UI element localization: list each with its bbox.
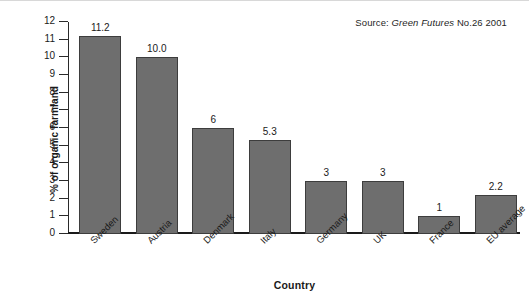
y-axis-tick: 8	[59, 92, 68, 93]
bar[interactable]	[249, 140, 291, 234]
y-axis-tick-label: 5	[29, 138, 55, 151]
y-axis-tick: 10	[59, 56, 68, 57]
bar-value-label: 1	[436, 202, 442, 213]
y-axis-tick: 1	[59, 215, 68, 216]
x-axis-title-text: Country	[274, 279, 316, 291]
bar-value-label: 6	[210, 114, 216, 125]
y-axis-tick-label: 0	[29, 226, 55, 239]
y-axis-tick: 9	[59, 74, 68, 75]
bar-group[interactable]: 2.2	[475, 22, 517, 234]
bar-group[interactable]: 11.2	[79, 22, 121, 234]
bar-group[interactable]: 5.3	[249, 22, 291, 234]
y-axis-tick-label: 12	[29, 14, 55, 27]
bar-value-label: 3	[380, 167, 386, 178]
y-axis-tick: 6	[59, 127, 68, 128]
y-axis-tick: 11	[59, 39, 68, 40]
y-axis-tick: 0	[59, 233, 68, 234]
y-axis-tick: 3	[59, 180, 68, 181]
y-axis-tick-label: 7	[29, 102, 55, 115]
plot-area: 1211109876543210 11.210.065.33312.2	[68, 22, 520, 234]
y-axis-tick: 12	[59, 21, 68, 22]
bar-value-label: 10.0	[147, 43, 166, 54]
bar-value-label: 11.2	[91, 22, 110, 33]
y-axis-tick-label: 6	[29, 120, 55, 133]
y-axis-tick-label: 1	[29, 208, 55, 221]
figure-top-rule	[0, 0, 529, 1]
y-axis-tick: 7	[59, 109, 68, 110]
bar[interactable]	[362, 181, 404, 234]
y-axis-tick-label: 4	[29, 155, 55, 168]
bar[interactable]	[136, 57, 178, 234]
x-axis-title: Country	[0, 279, 529, 291]
bar-value-label: 2.2	[489, 181, 503, 192]
bars-layer: 11.210.065.33312.2	[68, 22, 520, 234]
y-axis-tick-label: 9	[29, 67, 55, 80]
y-axis-tick: 4	[59, 162, 68, 163]
y-axis-tick-label: 11	[29, 32, 55, 45]
bar-group[interactable]: 3	[305, 22, 347, 234]
y-axis-tick-label: 3	[29, 173, 55, 186]
bar-group[interactable]: 1	[418, 22, 460, 234]
y-axis-tick: 5	[59, 145, 68, 146]
bar-group[interactable]: 6	[192, 22, 234, 234]
bar-value-label: 5.3	[263, 126, 277, 137]
bar[interactable]	[79, 36, 121, 234]
y-axis-tick-label: 10	[29, 49, 55, 62]
bar-group[interactable]: 3	[362, 22, 404, 234]
bar-group[interactable]: 10.0	[136, 22, 178, 234]
y-axis-tick: 2	[59, 198, 68, 199]
y-axis-tick-label: 2	[29, 191, 55, 204]
y-axis-tick-label: 8	[29, 85, 55, 98]
bar-value-label: 3	[323, 167, 329, 178]
organic-farmland-bar-chart: Source: Green Futures No.26 2001 % of or…	[0, 0, 529, 299]
